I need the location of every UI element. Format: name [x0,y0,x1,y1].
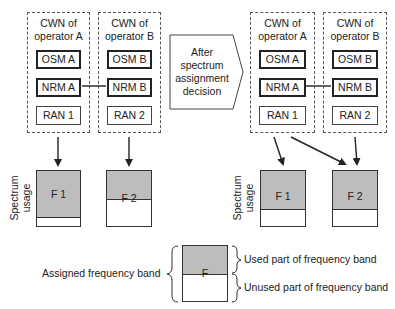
brace-used [232,246,241,273]
after-cwn-operator-b: CWN of operator B OSM B NRM B RAN 2 [323,12,387,133]
brace-unused [232,274,241,302]
osm-a-box: OSM A [259,50,306,69]
nrm-a-box: NRM A [259,78,306,97]
legend-assigned-label: Assigned frequency band [42,267,161,279]
brace-left [167,246,178,302]
band-f1-after: F 1 [260,170,306,227]
nrm-b-box: NRM B [332,78,378,97]
arrow-after-b-f2 [355,137,357,164]
band-label: F 1 [37,188,80,200]
spectrum-usage-label-after: Spectrum usage [231,173,255,223]
legend-unused-label: Unused part of frequency band [244,281,388,293]
band-label: F 1 [261,190,305,202]
legend-band: F [182,245,228,302]
band-label: F 2 [107,192,151,204]
arrow-after-a-f1 [274,137,283,164]
band-label: F [183,267,227,279]
band-f1-before: F 1 [36,170,81,227]
band-f2-after: F 2 [332,170,378,227]
legend-used-label: Used part of frequency band [244,253,377,265]
ran-2-box: RAN 2 [332,106,378,125]
spectrum-usage-label-before: Spectrum usage [8,173,32,223]
cwn-title: CWN of operator B [324,17,386,43]
after-cwn-operator-a: CWN of operator A OSM A NRM A RAN 1 [250,12,315,133]
transition-arrow-text: After spectrum assignment decision [170,46,234,98]
cwn-title: CWN of operator A [251,17,314,43]
band-label: F 2 [333,190,377,202]
arrow-after-a-f2 [291,137,345,164]
ran-1-box: RAN 1 [259,106,306,125]
band-f2-before: F 2 [106,170,152,227]
osm-b-box: OSM B [332,50,378,69]
